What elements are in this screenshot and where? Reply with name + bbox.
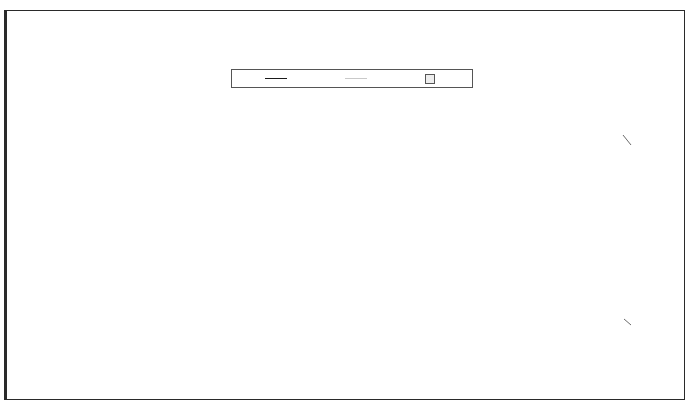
annotation-leader-bottom <box>624 319 631 325</box>
annotation-leader-top <box>623 135 631 145</box>
chart-canvas <box>7 11 688 399</box>
figure-panel <box>4 10 685 400</box>
